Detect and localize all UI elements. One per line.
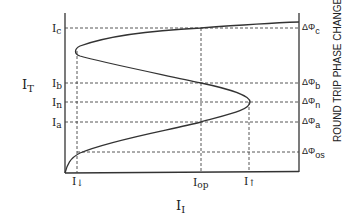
tick-in: In xyxy=(52,96,62,110)
tick-i-down: I↓ xyxy=(72,175,84,188)
tick-dphi-a: ΔΦa xyxy=(302,116,320,130)
bottom-axis xyxy=(65,172,299,174)
tick-dphi-os: ΔΦos xyxy=(302,146,325,160)
bistability-diagram: Ic Ib In Ia IT I↓ Iop I↑ II ΔΦc ΔΦb ΔΦn … xyxy=(0,0,349,223)
y-axis-title: IT xyxy=(22,77,34,94)
x-axis-title: II xyxy=(176,198,185,215)
tick-dphi-n: ΔΦn xyxy=(302,96,320,110)
tick-iop: Iop xyxy=(193,176,209,190)
tick-dphi-b: ΔΦb xyxy=(302,77,320,91)
tick-i-up: I↑ xyxy=(244,175,256,188)
tick-ia: Ia xyxy=(52,116,62,130)
right-axis-title: ROUND TRIP PHASE CHANGE xyxy=(332,0,343,142)
transfer-curve xyxy=(65,22,299,173)
tick-ib: Ib xyxy=(52,77,62,91)
tick-ic: Ic xyxy=(52,22,61,36)
tick-dphi-c: ΔΦc xyxy=(302,22,320,36)
